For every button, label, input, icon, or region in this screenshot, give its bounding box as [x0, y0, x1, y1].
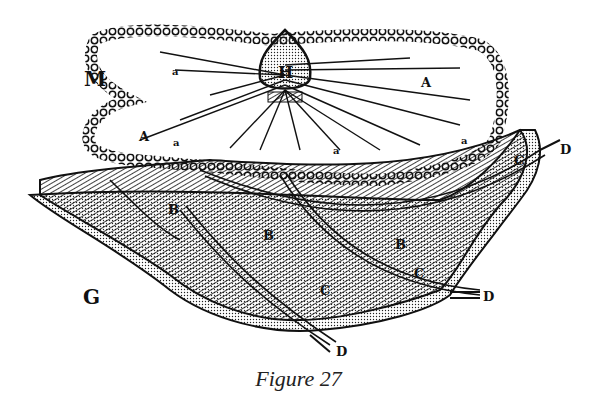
- label-a-2: a: [173, 138, 179, 148]
- label-A-left: A: [139, 130, 149, 143]
- label-B-3: B: [395, 238, 406, 251]
- label-a-1: a: [172, 67, 178, 77]
- label-B-1: B: [168, 203, 179, 216]
- label-D-1: D: [560, 143, 571, 156]
- label-M: M: [84, 69, 106, 89]
- label-D-3: D: [336, 345, 347, 358]
- label-C-2: C: [414, 267, 424, 280]
- label-H: H: [278, 65, 293, 81]
- label-B-2: B: [263, 229, 274, 242]
- engraving-illustration: [0, 0, 597, 402]
- label-D-2: D: [483, 290, 494, 303]
- label-A-right: A: [421, 76, 431, 89]
- figure-caption: Figure 27: [0, 366, 597, 392]
- label-a-3: a: [333, 146, 339, 156]
- figure-27-engraving: M H A A a a a a B B B C C C D D D G Figu…: [0, 0, 597, 402]
- label-a-4: a: [461, 136, 467, 146]
- label-C-3: C: [320, 284, 330, 297]
- label-G: G: [83, 287, 100, 307]
- label-C-1: C: [514, 154, 524, 167]
